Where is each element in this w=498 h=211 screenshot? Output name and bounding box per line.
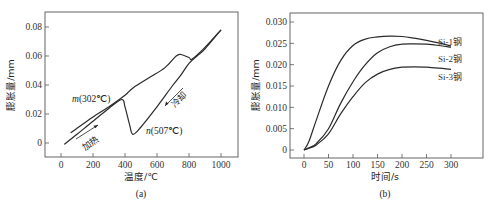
y-tick-label: 0.06 <box>25 51 42 61</box>
x-tick-label: 200 <box>86 160 101 170</box>
chart-a-panel-label: (a) <box>136 189 147 200</box>
y-tick-label: 0.010 <box>266 103 288 113</box>
x-tick-label: 800 <box>182 160 197 170</box>
chart-b-x-axis-label: 时间/s <box>371 171 399 182</box>
y-tick-label: 0.04 <box>25 80 42 90</box>
chart-b-curves <box>304 36 451 150</box>
x-tick-label: 300 <box>444 160 459 170</box>
curve-si-2-steel <box>304 44 451 150</box>
curve-cooling <box>71 30 221 133</box>
annotation-label: n(507℃) <box>146 126 182 137</box>
series-label-si-2: Si-2钢 <box>438 53 462 64</box>
chart-b-y-axis-label: 膨胀量/mm <box>250 59 261 111</box>
chart-a-x-ticks: 02004006008001000 <box>59 153 231 170</box>
y-tick-label: 0.02 <box>25 109 42 119</box>
cooling-label: 冷却 <box>169 89 190 110</box>
y-tick-label: 0.015 <box>266 81 288 91</box>
y-tick-label: 0.025 <box>266 39 288 49</box>
chart-b-x-ticks: 050100150200250300 <box>302 154 459 170</box>
chart-b-frame <box>290 13 483 158</box>
chart-a-frame <box>45 12 238 157</box>
x-tick-label: 50 <box>324 160 334 170</box>
series-label-si-1: Si-1钢 <box>438 36 462 47</box>
chart-a-curves <box>64 30 221 144</box>
annotation-label: m(302℃) <box>72 94 110 105</box>
x-tick-label: 200 <box>395 160 410 170</box>
chart-b-time-expansion: 050100150200250300 00.0050.0100.0150.020… <box>250 13 483 200</box>
chart-a-annotations: m(302℃)n(507℃)加热冷却 <box>72 88 189 153</box>
y-tick-label: 0 <box>282 145 287 155</box>
x-tick-label: 0 <box>59 160 64 170</box>
chart-a-y-axis-label: 膨胀量/mm <box>5 59 16 111</box>
x-tick-label: 150 <box>370 160 385 170</box>
x-tick-label: 400 <box>118 160 133 170</box>
chart-b-series-labels: Si-1钢Si-2钢Si-3钢 <box>438 36 462 82</box>
y-tick-label: 0.020 <box>266 60 288 70</box>
y-tick-label: 0 <box>37 138 42 148</box>
heating-label: 加热 <box>80 133 101 152</box>
x-tick-label: 250 <box>419 160 434 170</box>
chart-b-panel-label: (b) <box>379 189 390 200</box>
y-tick-label: 0.08 <box>25 22 42 32</box>
arrow-head-icon <box>165 102 169 107</box>
figure: 02004006008001000 00.020.040.060.08 m(30… <box>0 0 498 211</box>
chart-a-temperature-expansion: 02004006008001000 00.020.040.060.08 m(30… <box>5 12 238 200</box>
y-tick-label: 0.005 <box>266 124 288 134</box>
chart-a-y-ticks: 00.020.040.060.08 <box>25 22 49 148</box>
curve-heating <box>64 30 221 144</box>
x-tick-label: 600 <box>150 160 165 170</box>
x-tick-label: 1000 <box>212 160 231 170</box>
curve-si-3-steel <box>304 67 451 150</box>
chart-a-x-axis-label: 温度/℃ <box>124 171 158 182</box>
series-label-si-3: Si-3钢 <box>438 71 462 82</box>
y-tick-label: 0.030 <box>266 17 288 27</box>
x-tick-label: 0 <box>302 160 307 170</box>
x-tick-label: 100 <box>346 160 361 170</box>
